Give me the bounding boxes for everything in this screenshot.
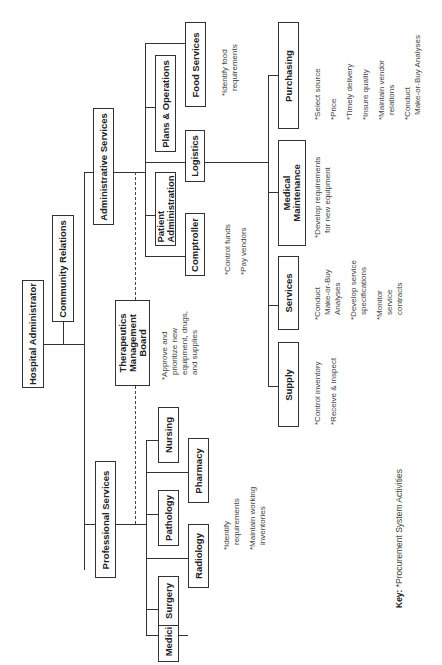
connector — [145, 162, 185, 163]
box-supply: Supply — [278, 342, 299, 427]
label: Therapeutics Management Board — [118, 313, 148, 372]
note-medical-maintenance: *Develop requirements for new equipment — [313, 157, 333, 238]
label: Nursing — [164, 417, 174, 453]
box-patient-administration: Patient Administration — [155, 172, 176, 246]
connector — [44, 344, 64, 345]
label: Hospital Administrator — [28, 283, 38, 385]
label: Logistics — [190, 135, 200, 177]
label: Pharmacy — [194, 448, 204, 493]
connector — [84, 172, 85, 570]
connector — [146, 514, 158, 515]
label: Community Relations — [58, 220, 68, 318]
label: Radiology — [194, 533, 204, 579]
key-text: *Procurement System Activities — [394, 469, 404, 587]
label: Medical Maintenance — [282, 164, 302, 222]
label: Patient Administration — [156, 175, 176, 242]
connector — [146, 440, 158, 441]
key-legend: Key: *Procurement System Activities — [394, 469, 404, 608]
box-community-relations: Community Relations — [52, 215, 74, 322]
connector — [268, 75, 269, 305]
label: Pathology — [164, 495, 174, 541]
label: Food Services — [191, 32, 201, 97]
dashed-connector — [135, 172, 136, 300]
box-food-services: Food Services — [185, 22, 206, 107]
box-radiology: Radiology — [188, 524, 209, 588]
connector — [64, 344, 84, 345]
connector — [146, 609, 158, 610]
connector — [116, 524, 146, 525]
connector — [145, 215, 155, 216]
connector — [145, 43, 146, 257]
connector — [146, 440, 147, 636]
connector — [146, 558, 188, 559]
connector — [145, 256, 185, 257]
connector — [145, 43, 185, 44]
box-logistics: Logistics — [185, 130, 205, 182]
box-professional-services: Professional Services — [95, 461, 116, 578]
box-surgery: Surgery — [158, 576, 179, 626]
connector — [113, 172, 145, 173]
connector — [63, 322, 64, 344]
note-food-services: *Identify food requirements — [220, 44, 240, 96]
box-medical-maintenance: Medical Maintenance — [278, 140, 306, 246]
dashed-connector — [135, 386, 136, 524]
note-supply: *Control inventory *Receive & inspect — [313, 358, 345, 425]
note-services: *Conduct Make-or-Buy Analyses *Develop s… — [313, 260, 411, 320]
connector — [145, 107, 155, 108]
box-pathology: Pathology — [158, 490, 179, 546]
box-plans-operations: Plans & Operations — [155, 55, 176, 152]
label: Administrative Services — [99, 113, 109, 221]
box-administrative-services: Administrative Services — [93, 108, 114, 225]
label: Surgery — [164, 583, 174, 619]
box-comptroller: Comptroller — [185, 213, 205, 276]
connector — [268, 305, 269, 387]
note-purchasing: *Select source *Price *Timely delivery *… — [313, 35, 429, 120]
box-therapeutics-board: Therapeutics Management Board — [115, 300, 150, 386]
label: Professional Services — [101, 470, 111, 569]
note-therapeutics: *Approve and prioritize new equipment, d… — [160, 311, 200, 380]
note-professional-services: *Identify requirements *Maintain working… — [222, 487, 274, 550]
connector — [205, 162, 268, 163]
label: Plans & Operations — [161, 60, 171, 148]
connector — [146, 472, 188, 473]
label: Comptroller — [190, 218, 200, 272]
label: Supply — [284, 369, 294, 401]
box-pharmacy: Pharmacy — [188, 438, 209, 503]
box-purchasing: Purchasing — [278, 22, 299, 129]
box-services: Services — [278, 256, 299, 330]
key-label: Key: — [394, 590, 404, 608]
label: Purchasing — [284, 50, 294, 102]
box-nursing: Nursing — [158, 407, 179, 463]
label: Services — [284, 273, 294, 312]
box-hospital-administrator: Hospital Administrator — [22, 280, 44, 388]
note-comptroller: *Control funds *Pay vendors — [223, 224, 255, 275]
